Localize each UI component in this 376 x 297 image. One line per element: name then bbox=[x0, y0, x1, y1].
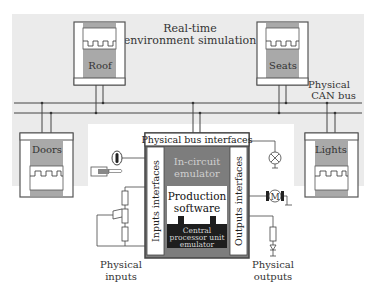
outputs-interfaces-label: Outputs interfaces bbox=[233, 156, 244, 246]
title-line2: environment simulation bbox=[124, 34, 257, 47]
bus-label-line2: CAN bus bbox=[311, 90, 356, 101]
led-output-icon bbox=[249, 216, 276, 256]
ecu-block: Physical bus interfaces Inputs interface… bbox=[141, 133, 252, 258]
lamp-icon bbox=[249, 141, 281, 168]
motor-symbol: M bbox=[270, 192, 279, 202]
outputs-label-line1: Physical bbox=[252, 259, 294, 270]
inputs-label-line1: Physical bbox=[100, 259, 142, 270]
seats-node: Seats bbox=[257, 22, 308, 85]
production-line2: software bbox=[174, 202, 220, 214]
production-line1: Production bbox=[168, 190, 227, 202]
roof-node: Roof bbox=[74, 22, 125, 85]
lights-node: Lights bbox=[305, 133, 358, 197]
push-button-icon bbox=[112, 151, 145, 165]
potentiometer-icon bbox=[97, 187, 145, 246]
doors-label: Doors bbox=[32, 144, 62, 155]
roof-label: Roof bbox=[88, 60, 113, 71]
bus-label-line1: Physical bbox=[308, 79, 350, 90]
in-circuit-line1: In-circuit bbox=[174, 156, 221, 167]
motor-icon: M bbox=[249, 190, 292, 205]
cpu-line3: emulator bbox=[180, 240, 215, 249]
in-circuit-line2: emulator bbox=[174, 168, 220, 179]
bus-interfaces-label: Physical bus interfaces bbox=[141, 134, 252, 145]
seats-label: Seats bbox=[269, 60, 297, 71]
diagram-canvas: Real-time environment simulation Physica… bbox=[0, 0, 376, 297]
ignition-key-icon bbox=[91, 167, 122, 176]
inputs-label-line2: inputs bbox=[105, 271, 137, 282]
doors-node: Doors bbox=[20, 133, 73, 197]
outputs-label-line2: outputs bbox=[254, 271, 292, 282]
inputs-interfaces-label: Inputs interfaces bbox=[150, 160, 161, 242]
lights-label: Lights bbox=[315, 144, 347, 155]
